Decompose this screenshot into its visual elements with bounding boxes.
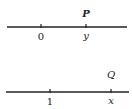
tick-label-x: x — [108, 96, 114, 106]
number-line-1 — [7, 24, 127, 28]
number-lines-svg — [0, 0, 132, 109]
number-line-2 — [6, 89, 129, 93]
tick-label-0: 0 — [38, 32, 44, 42]
tick-label-1: 1 — [47, 97, 53, 107]
tick-label-y: y — [83, 31, 89, 41]
point-label-q: Q — [107, 70, 115, 80]
point-label-p: P — [82, 9, 90, 19]
